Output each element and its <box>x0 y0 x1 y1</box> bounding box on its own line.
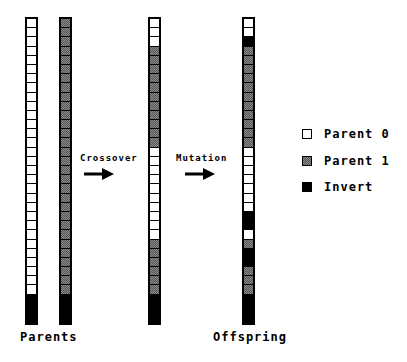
gene-cell <box>61 276 70 284</box>
gene-cell <box>150 47 159 55</box>
gene-cell <box>150 184 159 192</box>
gene-cell <box>61 74 70 82</box>
gene-cell <box>27 120 36 128</box>
gene-cell <box>27 102 36 110</box>
gene-cell <box>244 157 253 165</box>
gene-cell <box>150 166 159 174</box>
gene-cell <box>150 249 159 257</box>
gene-cell <box>27 276 36 284</box>
gene-cell <box>244 230 253 238</box>
gene-cell <box>27 148 36 156</box>
invert-swatch-icon <box>302 182 312 192</box>
gene-cell <box>150 138 159 146</box>
gene-cell <box>61 19 70 27</box>
gene-cell <box>61 111 70 119</box>
gene-cell <box>61 203 70 211</box>
parents-label: Parents <box>20 330 78 344</box>
gene-cell <box>150 240 159 248</box>
gene-cell <box>244 184 253 192</box>
crossover-arrow-icon <box>84 168 114 180</box>
gene-cell <box>27 138 36 146</box>
gene-cell <box>244 166 253 174</box>
gene-cell <box>150 93 159 101</box>
crossover-label: Crossover <box>80 153 138 163</box>
gene-cell <box>61 194 70 202</box>
gene-cell <box>150 203 159 211</box>
gene-cell <box>150 111 159 119</box>
gene-cell <box>244 285 253 293</box>
gene-cell <box>150 56 159 64</box>
gene-cell <box>27 65 36 73</box>
gene-cell <box>61 120 70 128</box>
parent-0-chromosome <box>25 17 38 325</box>
gene-cell <box>150 175 159 183</box>
gene-cell <box>150 148 159 156</box>
gene-cell <box>244 267 253 275</box>
gene-cell <box>150 212 159 220</box>
gene-cell <box>244 56 253 64</box>
gene-cell <box>27 203 36 211</box>
gene-cell <box>27 249 36 257</box>
gene-cell <box>61 184 70 192</box>
gene-cell <box>27 221 36 229</box>
gene-cell <box>244 28 253 36</box>
gene-cell <box>150 65 159 73</box>
gene-cell <box>150 102 159 110</box>
gene-cell <box>27 212 36 220</box>
parent-1-chromosome <box>59 17 72 325</box>
gene-cell <box>61 129 70 137</box>
gene-cell <box>244 47 253 55</box>
gene-cell <box>27 111 36 119</box>
gene-cell <box>61 138 70 146</box>
gene-cell <box>27 194 36 202</box>
gene-cell <box>61 258 70 266</box>
mutation-label: Mutation <box>176 153 227 163</box>
gene-cell <box>150 37 159 45</box>
gene-cell <box>61 230 70 238</box>
gene-cell <box>27 285 36 293</box>
gene-cell <box>150 129 159 137</box>
gene-cell <box>150 157 159 165</box>
mutation-arrow-icon <box>185 168 215 180</box>
gene-cell <box>61 166 70 174</box>
gene-cell <box>244 276 253 284</box>
gene-cell <box>150 194 159 202</box>
gene-cell <box>150 74 159 82</box>
gene-cell <box>27 129 36 137</box>
gene-cell <box>244 19 253 27</box>
gene-cell <box>61 240 70 248</box>
gene-cell <box>61 47 70 55</box>
gene-cell <box>244 194 253 202</box>
gene-cell <box>244 175 253 183</box>
gene-cell <box>27 28 36 36</box>
gene-cell <box>27 240 36 248</box>
gene-cell <box>150 120 159 128</box>
gene-cell <box>150 285 159 293</box>
gene-cell <box>27 184 36 192</box>
gene-cell <box>27 157 36 165</box>
gene-cell <box>27 56 36 64</box>
gene-cell <box>61 102 70 110</box>
gene-cell <box>27 258 36 266</box>
offspring-label: Offspring <box>213 330 287 344</box>
gene-cell <box>61 267 70 275</box>
gene-cell <box>244 249 253 257</box>
gene-cell <box>244 221 253 229</box>
gene-cell <box>244 212 253 220</box>
parent-1-swatch-icon <box>302 156 312 166</box>
gene-cell <box>244 120 253 128</box>
gene-cell <box>150 28 159 36</box>
gene-cell <box>61 83 70 91</box>
gene-cell <box>61 148 70 156</box>
offspring-chromosome <box>242 17 255 325</box>
gene-cell <box>244 138 253 146</box>
gene-cell <box>244 129 253 137</box>
gene-cell <box>61 249 70 257</box>
gene-cell <box>61 93 70 101</box>
gene-cell <box>150 276 159 284</box>
gene-cell <box>61 212 70 220</box>
gene-cell <box>27 74 36 82</box>
gene-cell <box>61 37 70 45</box>
gene-cell <box>27 83 36 91</box>
gene-cell <box>27 166 36 174</box>
